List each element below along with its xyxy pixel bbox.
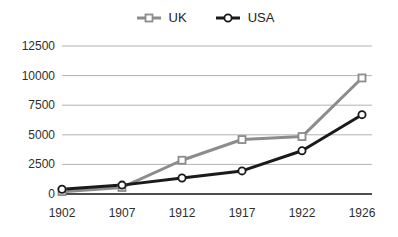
usa-data-point-marker bbox=[238, 167, 245, 174]
uk-data-point-marker bbox=[299, 133, 306, 140]
y-tick-label: 10000 bbox=[22, 69, 56, 83]
y-tick-label: 5000 bbox=[28, 128, 55, 142]
line-chart: 0250050007500100001250019021907191219171… bbox=[0, 0, 398, 237]
y-tick-label: 2500 bbox=[28, 157, 55, 171]
chart-container: UK USA 025005000750010000125001902190719… bbox=[0, 0, 398, 237]
usa-data-point-marker bbox=[358, 111, 365, 118]
x-tick-label: 1912 bbox=[169, 206, 196, 220]
uk-data-point-marker bbox=[179, 157, 186, 164]
usa-data-point-marker bbox=[118, 182, 125, 189]
y-tick-label: 0 bbox=[48, 187, 55, 201]
usa-data-point-marker bbox=[58, 186, 65, 193]
x-tick-label: 1922 bbox=[289, 206, 316, 220]
usa-data-point-marker bbox=[178, 174, 185, 181]
y-tick-label: 12500 bbox=[22, 39, 56, 53]
y-tick-label: 7500 bbox=[28, 98, 55, 112]
x-tick-label: 1926 bbox=[349, 206, 376, 220]
uk-data-point-marker bbox=[239, 136, 246, 143]
usa-line bbox=[62, 115, 362, 190]
x-tick-label: 1902 bbox=[49, 206, 76, 220]
usa-data-point-marker bbox=[298, 147, 305, 154]
uk-data-point-marker bbox=[359, 74, 366, 81]
x-tick-label: 1917 bbox=[229, 206, 256, 220]
x-tick-label: 1907 bbox=[109, 206, 136, 220]
